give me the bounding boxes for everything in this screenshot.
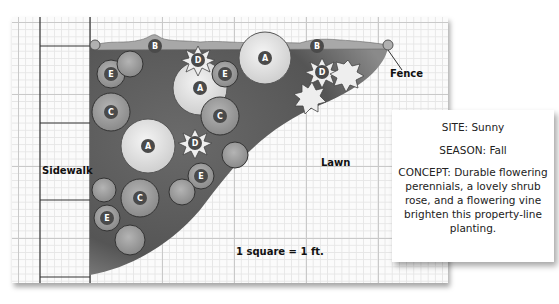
fence-label: Fence — [390, 68, 423, 79]
svg-text:E: E — [198, 172, 203, 181]
svg-text:E: E — [108, 70, 113, 79]
svg-text:A: A — [145, 142, 152, 151]
svg-text:D: D — [195, 56, 202, 65]
svg-text:B: B — [314, 42, 320, 51]
svg-text:D: D — [192, 139, 199, 148]
badge-C: C — [133, 191, 147, 205]
badge-D: D — [188, 136, 202, 150]
badge-C: C — [213, 109, 227, 123]
badge-A: A — [141, 139, 155, 153]
season-text: SEASON: Fall — [392, 143, 554, 157]
info-box: SITE: Sunny SEASON: Fall CONCEPT: Durabl… — [392, 110, 554, 262]
svg-text:C: C — [217, 112, 223, 121]
svg-text:B: B — [152, 42, 158, 51]
scale-label: 1 square = 1 ft. — [236, 246, 324, 257]
badge-D: D — [315, 65, 329, 79]
lawn-label: Lawn — [321, 157, 350, 168]
badge-A: A — [193, 81, 207, 95]
svg-text:C: C — [137, 194, 143, 203]
badge-A: A — [258, 51, 272, 65]
sidewalk-label: Sidewalk — [42, 165, 93, 176]
svg-text:D: D — [319, 68, 326, 77]
badge-B: B — [310, 39, 324, 53]
svg-text:E: E — [104, 214, 109, 223]
sidewalk — [40, 17, 90, 283]
concept-text: CONCEPT: Durable flowering perennials, a… — [392, 165, 554, 235]
badge-E: E — [194, 169, 208, 183]
badge-E: E — [218, 67, 232, 81]
badge-B: B — [148, 39, 162, 53]
badge-E: E — [104, 67, 118, 81]
svg-text:C: C — [108, 108, 114, 117]
svg-text:A: A — [262, 54, 269, 63]
badge-E: E — [100, 211, 114, 225]
badge-D: D — [191, 53, 205, 67]
site-text: SITE: Sunny — [392, 120, 554, 134]
badge-C: C — [104, 105, 118, 119]
svg-text:A: A — [197, 84, 204, 93]
svg-text:E: E — [222, 70, 227, 79]
